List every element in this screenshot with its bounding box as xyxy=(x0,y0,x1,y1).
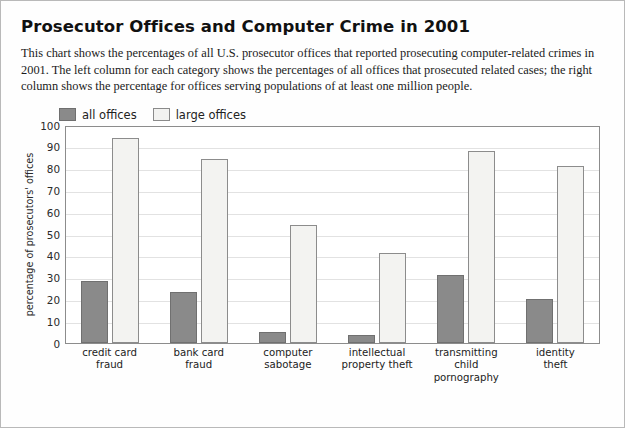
x-axis-label-line: computer xyxy=(244,347,331,360)
x-axis-label-line: intellectual xyxy=(334,347,421,360)
x-axis-label-line: credit card xyxy=(66,347,153,360)
x-axis-label-line: theft xyxy=(512,359,599,372)
x-axis-label-line: fraud xyxy=(155,359,242,372)
y-axis-tick-80: 80 xyxy=(47,163,60,175)
x-axis-label: bank cardfraud xyxy=(154,347,243,385)
bar-group xyxy=(66,127,155,343)
y-axis-tick-60: 60 xyxy=(47,207,60,219)
legend-swatch-large-offices xyxy=(153,108,170,121)
legend-item-all-offices: all offices xyxy=(59,108,137,122)
bar-large-offices xyxy=(112,138,139,343)
legend-label-all-offices: all offices xyxy=(82,108,137,122)
bar-group xyxy=(244,127,333,343)
bar-group xyxy=(510,127,599,343)
y-axis-tick-20: 20 xyxy=(47,294,60,306)
bar-all-offices xyxy=(81,281,108,342)
chart-legend: all offices large offices xyxy=(59,108,608,122)
legend-item-large-offices: large offices xyxy=(153,108,246,122)
x-axis-label-line: property theft xyxy=(334,359,421,372)
bar-large-offices xyxy=(379,253,406,342)
bar-all-offices xyxy=(170,292,197,342)
bar-large-offices xyxy=(557,166,584,343)
x-axis-label: identitytheft xyxy=(511,347,600,385)
bar-group xyxy=(421,127,510,343)
x-axis-label-line: sabotage xyxy=(244,359,331,372)
y-axis-ticks: 1009080706050403020100 xyxy=(37,126,63,344)
bar-group xyxy=(332,127,421,343)
y-axis-title-text: percentage of prosecutors' offices xyxy=(25,153,36,317)
x-axis-label-line: child pornography xyxy=(423,359,510,385)
chart-page: Prosecutor Offices and Computer Crime in… xyxy=(0,0,625,428)
y-axis-tick-100: 100 xyxy=(40,120,60,132)
legend-swatch-all-offices xyxy=(59,108,76,121)
x-axis-label: computersabotage xyxy=(243,347,332,385)
bar-all-offices xyxy=(437,275,464,343)
y-axis-tick-70: 70 xyxy=(47,185,60,197)
y-axis-title: percentage of prosecutors' offices xyxy=(23,126,37,344)
x-axis-label-line: identity xyxy=(512,347,599,360)
y-axis-tick-0: 0 xyxy=(53,338,60,350)
bar-large-offices xyxy=(468,151,495,343)
y-axis-tick-10: 10 xyxy=(47,316,60,328)
bar-groups xyxy=(66,127,599,343)
plot-area xyxy=(65,126,600,344)
x-axis-label-line: transmitting xyxy=(423,347,510,360)
bar-all-offices xyxy=(348,335,375,343)
y-axis-tick-30: 30 xyxy=(47,272,60,284)
bar-all-offices xyxy=(259,332,286,343)
x-axis-label: intellectualproperty theft xyxy=(333,347,422,385)
y-axis-tick-90: 90 xyxy=(47,141,60,153)
bar-group xyxy=(155,127,244,343)
bar-all-offices xyxy=(526,299,553,343)
page-title: Prosecutor Offices and Computer Crime in… xyxy=(21,17,608,36)
x-axis-labels: credit cardfraudbank cardfraudcomputersa… xyxy=(65,347,600,385)
bar-large-offices xyxy=(201,159,228,342)
x-axis-label-line: fraud xyxy=(66,359,153,372)
y-axis-tick-50: 50 xyxy=(47,229,60,241)
legend-label-large-offices: large offices xyxy=(176,108,246,122)
x-axis-label: transmittingchild pornography xyxy=(422,347,511,385)
x-axis-label: credit cardfraud xyxy=(65,347,154,385)
chart-description: This chart shows the percentages of all … xyxy=(21,45,602,95)
y-axis-tick-40: 40 xyxy=(47,250,60,262)
bar-large-offices xyxy=(290,225,317,343)
x-axis-label-line: bank card xyxy=(155,347,242,360)
bar-chart: percentage of prosecutors' offices 10090… xyxy=(23,126,600,378)
